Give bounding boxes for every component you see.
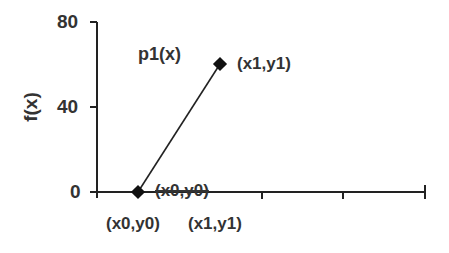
series-label: p1(x) — [138, 44, 181, 65]
y-axis-label: f(x) — [20, 92, 42, 122]
data-point-marker — [131, 185, 145, 199]
data-point-marker — [213, 57, 227, 71]
point-label: (x0,y0) — [155, 181, 209, 201]
series-line-p1 — [138, 64, 220, 192]
y-tick-label: 80 — [57, 11, 78, 33]
y-tick-label: 0 — [70, 181, 81, 203]
x-category-label: (x1,y1) — [188, 214, 242, 234]
y-tick-label: 40 — [57, 96, 78, 118]
x-category-label: (x0,y0) — [106, 214, 160, 234]
point-label: (x1,y1) — [237, 54, 291, 74]
